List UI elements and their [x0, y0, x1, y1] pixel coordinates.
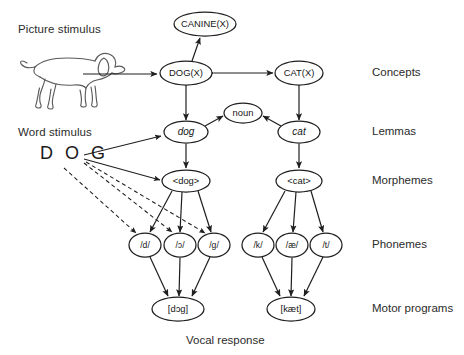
node-label-phon-d: /d/: [140, 241, 150, 250]
diagram-canvas: Picture stimulus Word stimulus D O G Voc…: [0, 0, 464, 355]
edge-lemma-cat-noun: [263, 116, 281, 126]
dog-line-drawing-icon: [21, 53, 125, 109]
word-stimulus-value: D O G: [40, 143, 109, 164]
edge-morph-cat-phon-t: [311, 191, 323, 232]
node-label-phon-ae: /æ/: [286, 241, 298, 250]
edge-phon-t-motor: [304, 257, 323, 296]
node-label-phon-g: /g/: [209, 241, 219, 250]
node-label-morph-cat: <cat>: [287, 176, 310, 185]
edge-morph-cat-phon-k: [263, 191, 285, 232]
node-label-phon-open-o: /ɔ/: [175, 241, 184, 250]
word-stimulus-label: Word stimulus: [18, 126, 92, 138]
edge-lemma-dog-noun: [205, 116, 223, 126]
edge-phon-d-motor: [150, 257, 168, 296]
edge-phon-g-motor: [192, 257, 210, 296]
node-label-noun: noun: [233, 108, 254, 117]
row-label-motor-programs: Motor programs: [372, 302, 453, 314]
row-label-morphemes: Morphemes: [372, 174, 433, 186]
row-label-concepts: Concepts: [372, 66, 421, 78]
edge-morph-dog-phon-o: [180, 192, 182, 232]
edge-dogx-canine: [192, 38, 200, 61]
row-label-phonemes: Phonemes: [372, 238, 427, 250]
node-label-dog-x: DOG(X): [169, 68, 203, 77]
node-label-morph-dog: <dog>: [173, 176, 200, 185]
node-label-phon-t: /t/: [322, 241, 329, 250]
edge-morph-cat-phon-ae: [293, 192, 296, 232]
node-label-lemma-cat: cat: [292, 127, 305, 137]
node-label-lemma-dog: dog: [178, 127, 195, 137]
edge-morph-dog-phon-g: [198, 191, 211, 232]
edge-morph-dog-phon-d: [150, 191, 172, 232]
edge-phon-o-motor: [179, 258, 180, 296]
picture-stimulus-label: Picture stimulus: [18, 23, 101, 35]
vocal-response-caption: Vocal response: [186, 334, 265, 346]
node-label-phon-k: /k/: [253, 241, 262, 250]
edge-word-to-phon-d: [64, 168, 136, 233]
node-label-cat-x: CAT(X): [284, 68, 315, 77]
edge-phon-k-motor: [262, 257, 280, 296]
node-label-motor-cat: [kæt]: [281, 304, 302, 313]
node-label-canine-x: CANINE(X): [181, 19, 229, 28]
row-label-lemmas: Lemmas: [372, 125, 416, 137]
node-label-motor-dog: [dɔg]: [168, 304, 188, 313]
edge-phon-ae-motor: [291, 258, 292, 296]
